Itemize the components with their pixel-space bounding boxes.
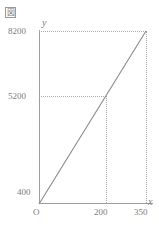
x-axis-tick-label-200: 200	[94, 207, 108, 217]
x-axis-title: x	[148, 196, 152, 207]
figure-container: 図 8200 5200 400 O 200 350 y x	[0, 0, 159, 234]
x-axis-origin-label: O	[33, 207, 40, 217]
x-axis-tick-label-350: 350	[134, 207, 148, 217]
y-axis-tick-label-400: 400	[17, 187, 31, 197]
figure-number-badge: 図	[5, 7, 16, 18]
data-series-line	[39, 28, 153, 204]
y-axis-tick-label-5200: 5200	[8, 91, 26, 101]
y-axis-title: y	[42, 17, 46, 28]
y-axis-tick-label-8200: 8200	[8, 26, 26, 36]
